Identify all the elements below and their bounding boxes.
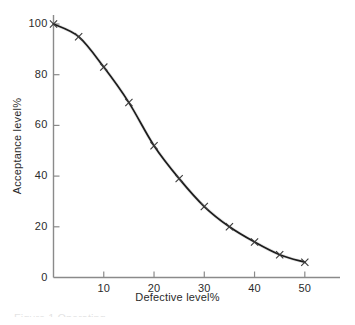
x-axis-title: Defective level% — [0, 291, 355, 303]
data-markers — [50, 20, 309, 265]
axes — [54, 15, 341, 278]
y-tick-label: 20 — [18, 220, 48, 232]
data-curve — [54, 24, 305, 262]
y-tick-label: 80 — [18, 68, 48, 80]
axis-ticks — [54, 24, 305, 278]
y-tick-label: 0 — [18, 271, 48, 283]
plot-area — [0, 0, 355, 325]
chart-figure: 020406080100 1020304050 Defective level%… — [0, 0, 355, 325]
y-tick-label: 100 — [18, 17, 48, 29]
caption-fragment: Figure 1 Operating — [14, 312, 134, 317]
y-axis-title: Acceptance level% — [11, 86, 23, 206]
